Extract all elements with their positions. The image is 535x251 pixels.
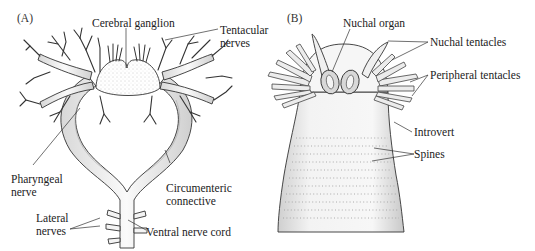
label-cerebral-ganglion: Cerebral ganglion [92,17,175,29]
label-nuchal-tentacles: Nuchal tentacles [430,36,506,48]
head-drawing [268,34,418,232]
label-nuchal-organ: Nuchal organ [343,17,405,29]
label-lateral-nerves-line1: Lateral [36,212,69,224]
label-tentacular-nerves-line1: Tentacular [220,24,268,36]
label-lateral-nerves-line2: nerves [36,225,66,237]
label-circumenteric-connective-line1: Circumenteric [166,182,232,194]
label-tentacular-nerves-line2: nerves [220,37,250,49]
label-circumenteric-connective-line2: connective [166,195,216,207]
label-spines: Spines [414,148,445,160]
label-ventral-nerve-cord: Ventral nerve cord [146,226,231,238]
label-introvert: Introvert [414,126,454,138]
label-peripheral-tentacles: Peripheral tentacles [430,69,520,81]
label-pharyngeal-nerve-line2: nerve [11,186,37,198]
panel-b-label: (B) [287,12,302,24]
panel-a-label: (A) [17,12,33,24]
label-pharyngeal-nerve-line1: Pharyngeal [11,173,63,185]
